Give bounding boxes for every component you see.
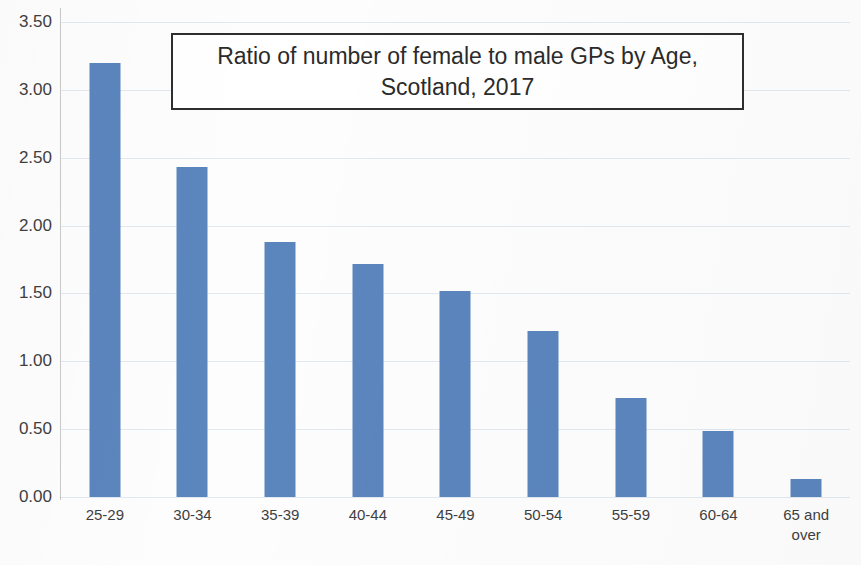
x-axis-tick-label: 30-34: [149, 505, 237, 525]
x-axis-tick-label: 35-39: [236, 505, 324, 525]
y-axis-tick-label: 2.00: [4, 217, 52, 234]
bar-slot: [762, 22, 850, 497]
bar: [615, 398, 646, 497]
y-axis-tick-label: 0.50: [4, 420, 52, 437]
y-axis-tick-label: 2.50: [4, 149, 52, 166]
bar: [352, 264, 383, 497]
bar: [265, 242, 296, 497]
bar: [791, 479, 822, 497]
bar: [703, 431, 734, 498]
x-axis-tick-label: 50-54: [499, 505, 587, 525]
bar: [177, 167, 208, 497]
chart-title-box: Ratio of number of female to male GPs by…: [171, 33, 744, 110]
bar: [440, 291, 471, 497]
x-axis-tick-label: 65 and over: [762, 505, 850, 545]
bar-chart-figure: 3.503.002.502.001.501.000.500.00 25-2930…: [0, 0, 861, 565]
gridline: [61, 497, 850, 498]
y-axis-tick-label: 3.00: [4, 81, 52, 98]
bar: [528, 331, 559, 497]
y-axis-tick-label: 0.00: [4, 488, 52, 505]
x-axis-tick-label: 55-59: [587, 505, 675, 525]
chart-title: Ratio of number of female to male GPs by…: [205, 41, 710, 103]
x-axis-tick-label: 40-44: [324, 505, 412, 525]
x-axis-tick-label: 45-49: [412, 505, 500, 525]
x-axis-tick-label: 60-64: [675, 505, 763, 525]
bar-slot: [61, 22, 149, 497]
y-axis-tick-label: 3.50: [4, 13, 52, 30]
bar: [89, 63, 120, 497]
x-axis-tick-labels: 25-2930-3435-3940-4445-4950-5455-5960-64…: [61, 505, 850, 563]
x-axis-tick-label: 25-29: [61, 505, 149, 525]
y-axis-tick-label: 1.00: [4, 352, 52, 369]
y-axis-tick-label: 1.50: [4, 284, 52, 301]
